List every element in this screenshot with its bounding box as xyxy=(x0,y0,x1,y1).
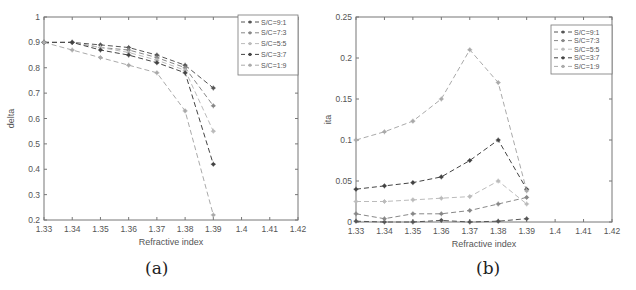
y-tick-label: 0.5 xyxy=(28,139,40,149)
data-marker xyxy=(211,212,216,217)
data-marker xyxy=(98,55,103,60)
chart-b-ita: 1.331.341.351.361.371.381.391.41.411.420… xyxy=(323,12,621,249)
series-S-C-3-7 xyxy=(42,40,216,167)
data-marker xyxy=(382,199,387,204)
legend-marker xyxy=(561,30,564,33)
data-marker xyxy=(524,195,529,200)
x-tick-label: 1.33 xyxy=(348,226,365,236)
legend-marker xyxy=(248,42,251,45)
legend-label: S/C=7:3 xyxy=(261,29,287,36)
data-marker xyxy=(496,219,501,224)
legend-label: S/C=3:7 xyxy=(261,51,287,58)
x-tick-label: 1.41 xyxy=(262,224,279,234)
data-marker xyxy=(70,40,75,45)
data-marker xyxy=(410,180,415,185)
y-tick-label: 0.7 xyxy=(28,88,40,98)
data-marker xyxy=(467,220,472,225)
data-marker xyxy=(467,208,472,213)
x-tick-label: 1.38 xyxy=(177,224,194,234)
caption-b: (b) xyxy=(476,258,500,278)
legend: S/C=9:1S/C=7:3S/C=5:5S/C=3:7S/C=1:9 xyxy=(551,25,612,74)
y-tick-label: 1 xyxy=(35,12,40,22)
data-marker xyxy=(496,138,501,143)
legend-label: S/C=1:9 xyxy=(574,63,600,70)
data-marker xyxy=(126,53,131,58)
series-line xyxy=(356,50,527,191)
figure: 1.331.341.351.361.371.381.391.41.411.420… xyxy=(0,0,636,290)
data-marker xyxy=(439,196,444,201)
x-tick-label: 1.34 xyxy=(376,226,393,236)
legend-label: S/C=1:9 xyxy=(261,62,287,69)
x-tick-label: 1.37 xyxy=(149,224,166,234)
y-axis-label: ita xyxy=(323,115,333,125)
series-S-C-1-9 xyxy=(42,40,216,218)
chart-a-delta: 1.331.341.351.361.371.381.391.41.411.420… xyxy=(6,12,307,247)
legend-marker xyxy=(561,48,564,51)
data-marker xyxy=(382,129,387,134)
legend-label: S/C=5:5 xyxy=(261,40,287,47)
legend-marker xyxy=(248,53,251,56)
data-marker xyxy=(42,40,47,45)
legend-marker xyxy=(561,56,564,59)
data-marker xyxy=(382,183,387,188)
data-marker xyxy=(439,211,444,216)
data-marker xyxy=(382,216,387,221)
legend-label: S/C=5:5 xyxy=(574,46,600,53)
series-S-C-3-7 xyxy=(354,138,530,192)
caption-a: (a) xyxy=(145,258,168,278)
legend-marker xyxy=(248,31,251,34)
x-tick-label: 1.35 xyxy=(405,226,422,236)
data-marker xyxy=(211,162,216,167)
legend-label: S/C=9:1 xyxy=(574,29,600,36)
x-tick-label: 1.33 xyxy=(36,224,53,234)
data-marker xyxy=(354,187,359,192)
x-tick-label: 1.4 xyxy=(236,224,248,234)
y-tick-label: 0.05 xyxy=(335,176,352,186)
y-tick-label: 0.2 xyxy=(340,53,352,63)
data-marker xyxy=(467,194,472,199)
data-marker xyxy=(524,216,529,221)
series-line xyxy=(44,42,213,164)
data-marker xyxy=(439,174,444,179)
x-tick-label: 1.39 xyxy=(205,224,222,234)
x-tick-label: 1.42 xyxy=(290,224,307,234)
y-tick-label: 0.9 xyxy=(28,37,40,47)
data-marker xyxy=(410,119,415,124)
data-marker xyxy=(410,220,415,225)
y-tick-label: 0.15 xyxy=(335,94,352,104)
y-tick-label: 0 xyxy=(347,217,352,227)
series-S-C-5-5 xyxy=(354,179,530,207)
data-marker xyxy=(410,197,415,202)
data-marker xyxy=(496,201,501,206)
x-axis-label: Refractive index xyxy=(139,237,204,247)
y-tick-label: 0.3 xyxy=(28,190,40,200)
data-marker xyxy=(410,211,415,216)
x-tick-label: 1.42 xyxy=(604,226,621,236)
x-tick-label: 1.36 xyxy=(120,224,137,234)
x-tick-label: 1.37 xyxy=(462,226,479,236)
legend-marker xyxy=(248,20,251,23)
legend-marker xyxy=(248,64,251,67)
data-marker xyxy=(70,47,75,52)
data-marker xyxy=(126,63,131,68)
data-marker xyxy=(439,97,444,102)
x-tick-label: 1.39 xyxy=(518,226,535,236)
data-marker xyxy=(211,103,216,108)
y-tick-label: 0.1 xyxy=(340,135,352,145)
y-tick-label: 0.4 xyxy=(28,164,40,174)
y-tick-label: 0.6 xyxy=(28,114,40,124)
data-marker xyxy=(354,211,359,216)
y-axis-label: delta xyxy=(6,109,16,129)
series-line xyxy=(44,42,213,215)
legend: S/C=9:1S/C=7:3S/C=5:5S/C=3:7S/C=1:9 xyxy=(238,15,298,75)
x-tick-label: 1.4 xyxy=(549,226,561,236)
y-tick-label: 0.25 xyxy=(335,12,352,22)
legend-label: S/C=3:7 xyxy=(574,54,600,61)
data-marker xyxy=(211,129,216,134)
legend-label: S/C=9:1 xyxy=(261,19,287,26)
data-marker xyxy=(354,199,359,204)
series-S-C-1-9 xyxy=(354,47,530,193)
x-tick-label: 1.35 xyxy=(92,224,109,234)
x-tick-label: 1.38 xyxy=(490,226,507,236)
legend-marker xyxy=(561,65,564,68)
